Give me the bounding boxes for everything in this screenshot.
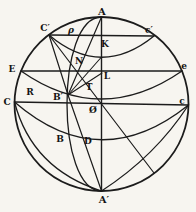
label-R: R <box>26 88 33 97</box>
sphere-diagram <box>0 0 196 212</box>
label-E: E <box>9 65 16 74</box>
label-B: B <box>56 135 64 144</box>
label-N: N <box>75 57 83 66</box>
label-L: L <box>104 72 110 81</box>
label-c-lower: c <box>179 97 184 106</box>
label-rho: ρ <box>68 26 74 35</box>
label-D: D <box>84 137 92 146</box>
label-A-prime: A′ <box>99 195 109 204</box>
sphere-diagram-stage: AA′CcC′c′EeRB′BDKLNTρØ <box>0 0 196 212</box>
label-B-prime: B′ <box>53 93 63 102</box>
label-K: K <box>101 40 109 49</box>
label-c-prime: c′ <box>145 26 153 35</box>
label-e-lower: e <box>181 62 187 71</box>
label-C: C <box>3 98 10 107</box>
label-A: A <box>98 7 106 16</box>
arc-C-Aprime-inner <box>15 102 102 191</box>
label-C-prime: C′ <box>40 24 50 33</box>
label-T: T <box>86 83 93 92</box>
ray-Bprime-Cprime <box>49 35 68 95</box>
label-center-O: Ø <box>89 106 97 115</box>
arc-c-Aprime-inner <box>102 105 189 191</box>
chord-Cprime-cprime <box>49 35 154 36</box>
